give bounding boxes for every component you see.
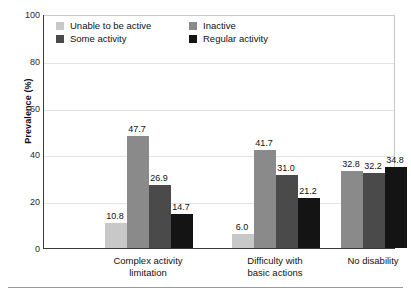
bar: [149, 185, 171, 248]
bar: [385, 167, 407, 248]
bar-value-label: 31.0: [269, 164, 303, 173]
bar-value-label: 6.0: [225, 223, 259, 232]
gridline: [44, 63, 394, 64]
x-axis-spine: [43, 248, 395, 249]
legend-swatch-icon: [56, 22, 64, 30]
y-tick-label: 0: [14, 245, 40, 254]
legend-swatch-icon: [189, 22, 197, 30]
legend-item-regular-activity: Regular activity: [189, 34, 268, 44]
bar-value-label: 47.7: [120, 125, 154, 134]
y-axis-spine: [43, 15, 44, 249]
legend-item-some-activity: Some activity: [56, 34, 189, 44]
plot-area: [43, 15, 395, 249]
legend-row: Unable to be active Inactive: [56, 19, 306, 32]
x-group-label-line: Complex activity: [78, 255, 218, 267]
x-group-label-line: basic actions: [205, 267, 345, 279]
gridline: [44, 110, 394, 111]
bar-chart-figure: Prevalence (%) 020406080100 Unable to be…: [0, 0, 411, 295]
y-tick-label: 40: [14, 151, 40, 160]
x-group-label-line: No disability: [303, 255, 411, 267]
x-group-label: Complex activitylimitation: [78, 255, 218, 278]
plot-inner: [44, 16, 394, 248]
legend-label: Regular activity: [203, 34, 268, 44]
y-tick-label: 100: [14, 11, 40, 20]
bar: [341, 171, 363, 248]
bar: [127, 136, 149, 248]
legend-row: Some activity Regular activity: [56, 32, 306, 45]
y-axis-ticks: 020406080100: [10, 0, 40, 295]
bar-value-label: 41.7: [247, 139, 281, 148]
y-tick-label: 80: [14, 58, 40, 67]
bar: [298, 198, 320, 248]
legend-swatch-icon: [56, 35, 64, 43]
y-tick-label: 60: [14, 105, 40, 114]
bar-value-label: 21.2: [291, 187, 325, 196]
bar: [276, 175, 298, 248]
y-tick-label: 20: [14, 198, 40, 207]
bar-value-label: 34.8: [378, 156, 411, 165]
bottom-divider: [8, 287, 403, 288]
bar-value-label: 26.9: [142, 174, 176, 183]
legend-label: Some activity: [70, 34, 127, 44]
legend-item-inactive: Inactive: [189, 21, 236, 31]
legend-label: Unable to be active: [70, 21, 151, 31]
bar: [171, 214, 193, 248]
bar: [232, 234, 254, 248]
legend-label: Inactive: [203, 21, 236, 31]
bar-value-label: 10.8: [98, 212, 132, 221]
x-group-label-line: limitation: [78, 267, 218, 279]
legend-swatch-icon: [189, 35, 197, 43]
bar-value-label: 14.7: [164, 203, 198, 212]
gridline: [44, 156, 394, 157]
x-group-label: No disability: [303, 255, 411, 267]
bar: [105, 223, 127, 248]
bar: [363, 173, 385, 248]
legend: Unable to be active Inactive Some activi…: [56, 19, 306, 45]
legend-item-unable-to-be-active: Unable to be active: [56, 21, 189, 31]
